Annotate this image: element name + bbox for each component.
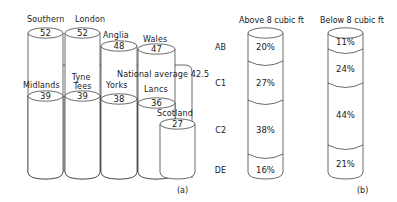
cylinder-tyne-tees — [65, 91, 100, 179]
value-wales: 47 — [151, 44, 162, 54]
value-southern: 52 — [40, 28, 51, 38]
caption-b: (b) — [357, 186, 368, 195]
value-below-ab: 11% — [336, 37, 355, 47]
label-anglia: Anglia — [103, 31, 129, 40]
panel-b: Above 8 cubic ft Below 8 cubic ft 20% 27… — [215, 16, 384, 195]
label-midlands: Midlands — [23, 81, 60, 90]
value-below-c1: 24% — [336, 64, 355, 74]
combined-figure: 52 52 48 47 39 39 38 36 27 Southern Lond… — [0, 0, 397, 202]
value-lancs: 36 — [151, 98, 162, 108]
value-above-c1: 27% — [256, 78, 275, 88]
value-london: 52 — [77, 28, 88, 38]
value-above-ab: 20% — [256, 42, 275, 52]
figure-canvas: 52 52 48 47 39 39 38 36 27 Southern Lond… — [0, 0, 397, 202]
label-wales: Wales — [143, 35, 167, 44]
label-london: London — [75, 15, 105, 24]
cylinder-midlands — [28, 91, 63, 179]
header-above: Above 8 cubic ft — [239, 16, 304, 25]
header-below: Below 8 cubic ft — [320, 16, 384, 25]
value-tyne-tees: 39 — [77, 91, 88, 101]
label-tyne-tees-line2: Tees — [72, 82, 91, 91]
value-below-de: 21% — [336, 159, 355, 169]
national-average-label: National average 42.5 — [117, 70, 209, 79]
category-label-ab: AB — [215, 43, 226, 52]
caption-a: (a) — [177, 186, 188, 195]
category-label-c2: C2 — [215, 126, 226, 135]
stacked-cylinder-below — [328, 28, 363, 179]
value-yorks: 38 — [114, 94, 125, 104]
category-label-de: DE — [215, 166, 226, 175]
label-tyne-tees: Tyne Tees — [71, 73, 94, 91]
value-anglia: 48 — [114, 41, 125, 51]
label-lancs: Lancs — [144, 85, 168, 94]
category-label-c1: C1 — [215, 79, 226, 88]
label-yorks: Yorks — [105, 81, 128, 90]
value-above-c2: 38% — [256, 125, 275, 135]
panel-a: 52 52 48 47 39 39 38 36 27 Southern Lond… — [23, 15, 209, 195]
label-scotland: Scotland — [157, 109, 193, 118]
value-scotland: 27 — [172, 119, 183, 129]
label-southern: Southern — [27, 15, 65, 24]
value-midlands: 39 — [40, 91, 51, 101]
value-below-c2: 44% — [336, 110, 355, 120]
value-above-de: 16% — [256, 165, 275, 175]
cylinder-yorks — [101, 94, 137, 179]
